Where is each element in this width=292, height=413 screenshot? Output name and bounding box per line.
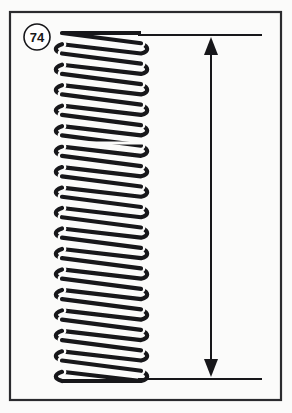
figure-page: 74 <box>0 0 292 413</box>
spring-diagram: 74 <box>0 0 292 413</box>
callout-label: 74 <box>30 30 45 45</box>
item-callout: 74 <box>24 24 50 50</box>
